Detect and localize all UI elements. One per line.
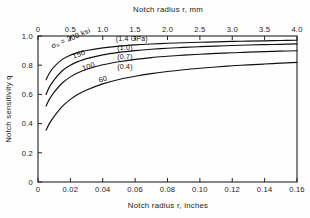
top-tick-label: 3.0 [227, 25, 238, 34]
top-tick-label: 3.5 [259, 25, 270, 34]
notch-sensitivity-figure: 00.51.01.52.02.53.03.54.0 00.020.040.060… [0, 0, 310, 218]
top-tick-label: 0 [36, 25, 40, 34]
top-axis-title: Notch radius r, mm [133, 5, 203, 14]
left-tick-label: 0.8 [22, 61, 33, 70]
bottom-axis-tick-labels: 00.020.040.060.080.100.120.140.16 [36, 185, 305, 194]
curve-annotation: (0.7) [117, 53, 132, 61]
bottom-tick-label: 0.02 [63, 185, 79, 194]
left-tick-label: 0.2 [22, 149, 33, 158]
top-tick-label: 1.0 [97, 25, 108, 34]
top-tick-label: 2.5 [194, 25, 205, 34]
notch-sensitivity-chart: 00.51.01.52.02.53.03.54.0 00.020.040.060… [0, 0, 310, 218]
left-tick-label: 0.4 [22, 119, 33, 128]
left-tick-label: 0 [29, 178, 33, 187]
bottom-tick-label: 0 [36, 185, 40, 194]
top-tick-label: 2.0 [162, 25, 173, 34]
bottom-axis-ticks [38, 178, 297, 182]
curve-annotation: 150 [71, 48, 86, 61]
left-axis-tick-labels: 00.20.40.60.81.0 [22, 32, 33, 187]
bottom-tick-label: 0.12 [224, 185, 240, 194]
bottom-tick-label: 0.06 [127, 185, 143, 194]
curve-annotation: 100 [81, 60, 96, 73]
bottom-axis-title: Notch radius r, inches [128, 201, 208, 210]
top-tick-label: 4.0 [291, 25, 302, 34]
curve-annotation: (1.0) [117, 44, 132, 52]
top-tick-label: 1.5 [130, 25, 141, 34]
bottom-tick-label: 0.08 [160, 185, 176, 194]
bottom-tick-label: 0.04 [95, 185, 111, 194]
curve-annotation: (1.4 GPa) [116, 35, 148, 43]
bottom-tick-label: 0.14 [257, 185, 273, 194]
left-axis-ticks [38, 36, 42, 182]
y-axis-title: Notch sensitivity q [4, 75, 13, 143]
bottom-tick-label: 0.16 [289, 185, 305, 194]
left-tick-label: 0.6 [22, 90, 33, 99]
curve-annotation: (0.4) [117, 63, 132, 71]
left-tick-label: 1.0 [22, 32, 33, 41]
bottom-tick-label: 0.10 [192, 185, 208, 194]
